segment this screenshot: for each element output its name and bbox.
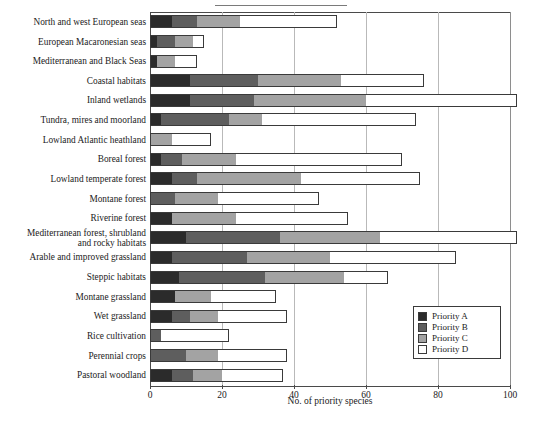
table-row: Mediterranean forest, shrubland and rock… (150, 228, 510, 248)
bar-segment-priority-d (222, 369, 283, 382)
bar-segment-priority-d (175, 55, 197, 68)
table-row: Montane grassland (150, 287, 510, 307)
bar-segment-priority-a (150, 113, 161, 126)
bar-segment-priority-d (236, 153, 402, 166)
legend-item-d: Priority D (418, 344, 496, 354)
chart-figure: 020406080100 North and west European sea… (0, 0, 558, 438)
category-label: Coastal habitats (6, 77, 146, 87)
category-label: Wet grassland (6, 312, 146, 322)
category-label: Riverine forest (6, 214, 146, 224)
bar-segment-priority-d (344, 271, 387, 284)
bar-segment-priority-c (175, 35, 193, 48)
table-row: Arable and improved grassland (150, 248, 510, 268)
bar-segment-priority-d (341, 74, 424, 87)
stacked-bar (150, 74, 424, 87)
stacked-bar (150, 290, 276, 303)
tick-100 (510, 385, 511, 389)
bar-segment-priority-a (150, 290, 175, 303)
bar-segment-priority-d (262, 113, 417, 126)
bar-segment-priority-c (265, 271, 344, 284)
category-label: Mediterranean and Black Seas (6, 57, 146, 67)
bar-segment-priority-c (172, 212, 237, 225)
x-axis-label: No. of priority species (150, 396, 510, 406)
bar-segment-priority-c (197, 15, 240, 28)
bar-segment-priority-d (380, 231, 517, 244)
table-row: European Macaronesian seas (150, 32, 510, 52)
tick-20 (222, 385, 223, 389)
bar-segment-priority-a (150, 35, 157, 48)
bar-segment-priority-d (193, 35, 204, 48)
legend-label: Priority C (432, 333, 468, 343)
bar-segment-priority-b (172, 15, 197, 28)
legend-label: Priority A (432, 311, 468, 321)
table-row: Tundra, mires and moorland (150, 110, 510, 130)
table-row: Pastoral woodland (150, 365, 510, 385)
stacked-bar (150, 55, 197, 68)
bar-segment-priority-c (280, 231, 381, 244)
bar-segment-priority-d (218, 192, 319, 205)
bar-segment-priority-d (240, 15, 337, 28)
table-row: Montane forest (150, 189, 510, 209)
legend-label: Priority D (432, 344, 468, 354)
category-label: Pastoral woodland (6, 371, 146, 381)
table-row: Mediterranean and Black Seas (150, 51, 510, 71)
bar-segment-priority-b (186, 231, 280, 244)
bar-segment-priority-c (175, 192, 218, 205)
bar-segment-priority-a (150, 231, 186, 244)
stacked-bar (150, 251, 456, 264)
stacked-bar (150, 349, 287, 362)
stacked-bar (150, 153, 402, 166)
legend-item-a: Priority A (418, 311, 496, 321)
table-row: Inland wetlands (150, 91, 510, 111)
bar-segment-priority-a (150, 15, 172, 28)
bar-segment-priority-b (172, 369, 194, 382)
bar-segment-priority-d (236, 212, 348, 225)
bar-segment-priority-d (161, 329, 229, 342)
stacked-bar (150, 192, 319, 205)
bar-segment-priority-c (229, 113, 261, 126)
bar-segment-priority-b (190, 74, 258, 87)
bar-segment-priority-a (150, 74, 190, 87)
bar-segment-priority-c (190, 310, 219, 323)
category-label: Boreal forest (6, 155, 146, 165)
category-label: Lowland temperate forest (6, 175, 146, 185)
stacked-bar (150, 133, 211, 146)
bar-segment-priority-d (366, 94, 517, 107)
legend-label: Priority B (432, 322, 468, 332)
bar-segment-priority-a (150, 94, 190, 107)
stacked-bar (150, 271, 388, 284)
category-label: Perennial crops (6, 352, 146, 362)
bar-segment-priority-b (150, 329, 161, 342)
bar-segment-priority-b (190, 94, 255, 107)
table-row: Coastal habitats (150, 71, 510, 91)
category-label: Inland wetlands (6, 96, 146, 106)
stacked-bar (150, 35, 204, 48)
bar-segment-priority-d (218, 349, 286, 362)
bar-segment-priority-b (161, 113, 229, 126)
bar-segment-priority-c (157, 55, 175, 68)
bar-segment-priority-d (301, 172, 420, 185)
bar-segment-priority-a (150, 310, 172, 323)
bar-segment-priority-b (150, 192, 175, 205)
bar-segment-priority-c (175, 290, 211, 303)
table-row: Lowland Atlantic heathland (150, 130, 510, 150)
legend-swatch-d (418, 345, 427, 354)
bar-segment-priority-b (157, 35, 175, 48)
stacked-bar (150, 212, 348, 225)
category-label: Rice cultivation (6, 332, 146, 342)
bar-segment-priority-d (330, 251, 456, 264)
bar-segment-priority-c (247, 251, 330, 264)
bar-segment-priority-c (197, 172, 301, 185)
category-label: Mediterranean forest, shrubland and rock… (6, 229, 146, 249)
category-label: Montane grassland (6, 293, 146, 303)
stacked-bar (150, 329, 229, 342)
tick-80 (438, 385, 439, 389)
category-label: Tundra, mires and moorland (6, 116, 146, 126)
category-label: Arable and improved grassland (6, 253, 146, 263)
legend-swatch-a (418, 312, 427, 321)
table-row: Riverine forest (150, 208, 510, 228)
gridline-100 (510, 12, 511, 385)
stacked-bar (150, 231, 517, 244)
stacked-bar (150, 172, 420, 185)
table-row: Boreal forest (150, 149, 510, 169)
